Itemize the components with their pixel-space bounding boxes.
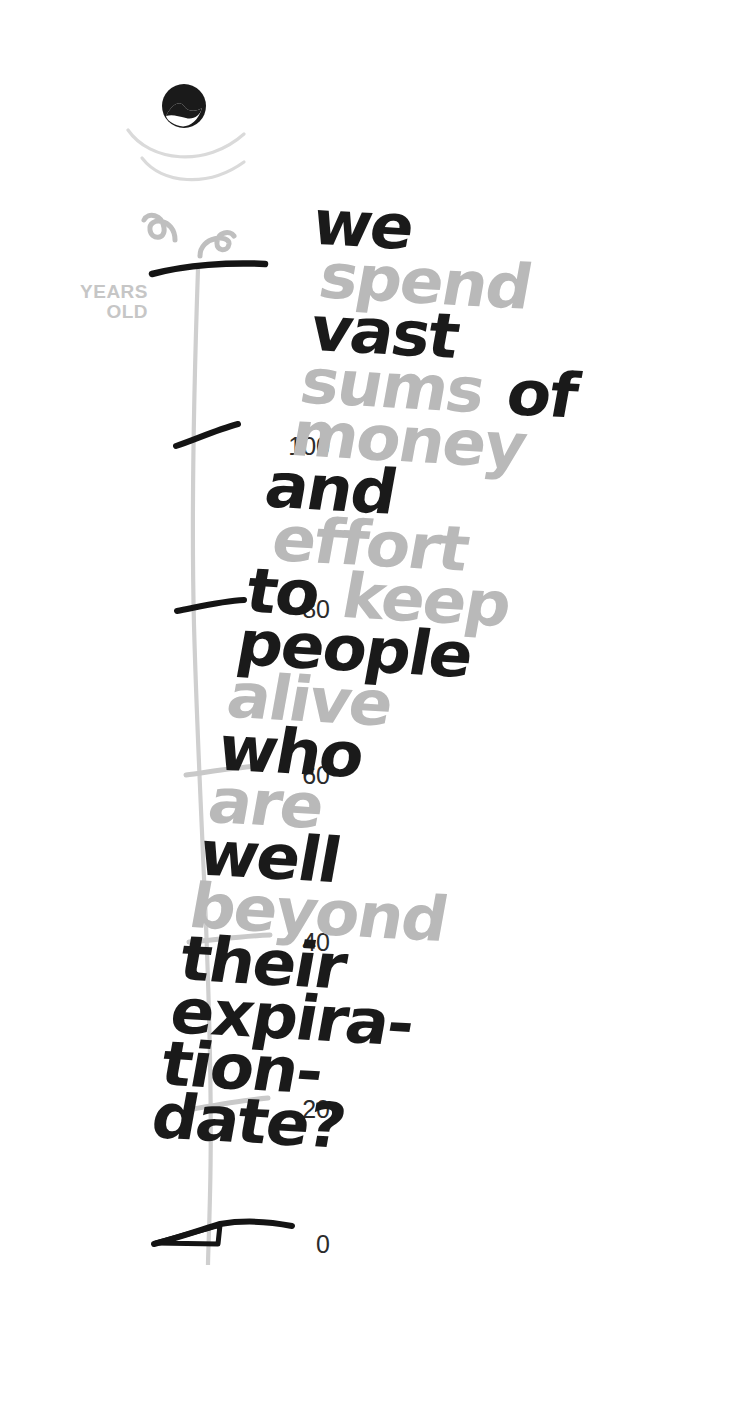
axis-units-label: YEARS OLD	[38, 282, 148, 322]
tick-top-bar	[148, 258, 270, 280]
headline-typography-block: we spend vast sumsof money and effort to…	[318, 196, 744, 1396]
axis-units-line2: OLD	[38, 302, 148, 322]
spiral-curl-icon	[130, 178, 260, 270]
balloon-head-icon	[160, 82, 208, 130]
axis-units-line1: YEARS	[80, 281, 148, 302]
tick-label-0: 0	[212, 1232, 330, 1257]
